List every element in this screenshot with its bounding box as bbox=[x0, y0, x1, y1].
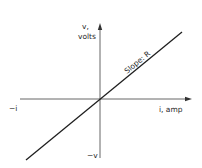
negative-v-label: −v bbox=[87, 151, 98, 160]
v-axis-arrow-icon bbox=[98, 23, 102, 30]
v-axis-unit-label: volts bbox=[78, 32, 96, 41]
v-axis-label: v, bbox=[82, 22, 89, 31]
characteristic-line bbox=[26, 32, 182, 160]
slope-label: Slope: R bbox=[123, 49, 153, 76]
negative-i-label: −i bbox=[9, 104, 17, 113]
i-axis-arrow-icon bbox=[185, 97, 192, 101]
vi-characteristic-diagram: v, volts Slope: R −i i, amp −v bbox=[0, 0, 202, 168]
positive-i-label: i, amp bbox=[159, 105, 183, 114]
